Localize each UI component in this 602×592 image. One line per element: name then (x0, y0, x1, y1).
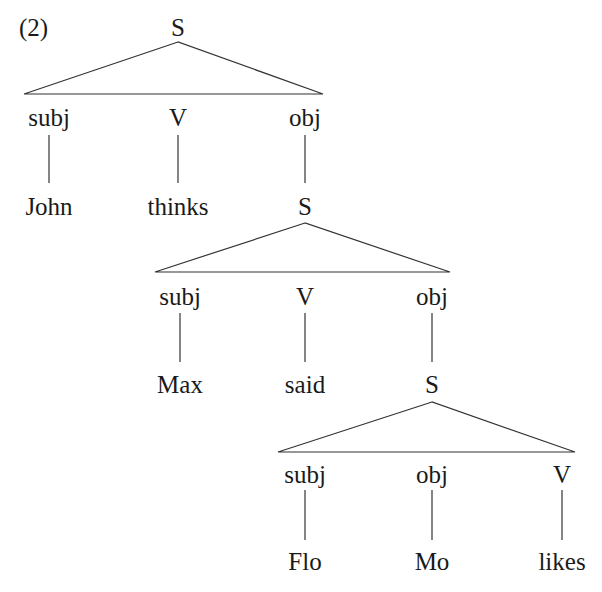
root-triangle (24, 42, 323, 94)
root-relation-obj: obj (289, 105, 321, 130)
root-leaf-john: John (25, 194, 72, 219)
e2-leaf-mo: Mo (415, 549, 450, 574)
e2-relation-v: V (553, 462, 571, 487)
dependency-tree-diagram: (2) S subj V obj John thinks S subj V ob… (0, 0, 602, 592)
e1-leaf-said: said (285, 372, 325, 397)
e1-relation-subj: subj (159, 284, 201, 309)
e2-leaf-likes: likes (538, 549, 585, 574)
embedded1-triangle (155, 223, 450, 272)
embedded2-node-label: S (425, 372, 439, 397)
root-leaf-thinks: thinks (147, 194, 208, 219)
e1-relation-v: V (296, 284, 314, 309)
root-relation-subj: subj (28, 105, 70, 130)
e2-leaf-flo: Flo (288, 549, 321, 574)
example-number: (2) (19, 15, 48, 40)
root-node-label: S (171, 15, 185, 40)
embedded1-node-label: S (298, 194, 312, 219)
embedded2-triangle (278, 402, 575, 452)
root-relation-v: V (169, 105, 187, 130)
e2-relation-obj: obj (416, 462, 448, 487)
e1-relation-obj: obj (416, 284, 448, 309)
e2-relation-subj: subj (284, 462, 326, 487)
e1-leaf-max: Max (157, 372, 203, 397)
